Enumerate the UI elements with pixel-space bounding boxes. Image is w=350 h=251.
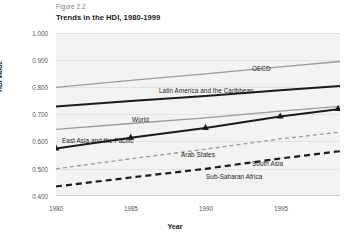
y-axis-title: HDI value [0,61,3,92]
page-title: Trends in the HDI, 1980-1999 [56,13,160,22]
series-lines [56,33,340,196]
y-tick-0700: 0.700 [14,111,48,118]
x-axis-title: Year [0,222,350,231]
plot-inner: OECD Latin America and the Caribbean Wor… [56,33,340,196]
y-tick-0800: 0.800 [14,84,48,91]
figure-container: Figure 2.2 Trends in the HDI, 1980-1999 [0,0,350,251]
x-tick-1990: 1990 [191,205,221,212]
series-line-world [56,106,340,129]
x-tick-1980: 1980 [41,205,71,212]
series-label-south-asia: South Asia [252,160,283,167]
y-tick-0400: 0.400 [14,193,48,200]
x-tick-1995: 1995 [266,205,296,212]
y-tick-1000: 1.000 [14,30,48,37]
series-label-world: World [132,116,149,123]
series-label-latin-america: Latin America and the Caribbean [159,87,254,94]
series-label-sub-saharan-africa: Sub-Saharan Africa [206,173,262,180]
plot-area: OECD Latin America and the Caribbean Wor… [56,33,340,196]
series-label-arab-states: Arab States [181,151,215,158]
figure-number: Figure 2.2 [56,3,86,10]
x-tick-1985: 1985 [116,205,146,212]
y-tick-0500: 0.500 [14,166,48,173]
series-line-oecd [56,62,340,88]
series-label-east-asia: East Asia and the Pacific [62,137,134,144]
series-label-oecd: OECD [252,65,271,72]
y-tick-0600: 0.600 [14,138,48,145]
y-tick-0900: 0.900 [14,57,48,64]
